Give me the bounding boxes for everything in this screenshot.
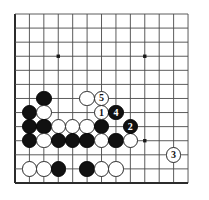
move-stone-3: 3: [166, 147, 182, 163]
move-number-label: 5: [99, 93, 104, 103]
white-stone: [108, 161, 124, 177]
white-stone: [36, 105, 52, 121]
move-number-label: 1: [99, 107, 104, 117]
white-stone: [36, 161, 52, 177]
star-point: [143, 139, 146, 142]
star-point: [143, 55, 146, 58]
move-stone-4: 4: [108, 105, 124, 121]
white-stone: [94, 161, 110, 177]
white-stone: [36, 133, 52, 149]
move-number-label: 3: [171, 149, 176, 159]
move-number-label: 2: [128, 121, 133, 131]
go-board-diagram: 51423: [0, 0, 209, 200]
black-stone: [51, 161, 67, 177]
star-point: [57, 55, 60, 58]
move-number-label: 4: [113, 107, 118, 117]
black-stone: [108, 133, 124, 149]
white-stone: [79, 91, 95, 107]
black-stone: [36, 91, 52, 107]
white-stone: [22, 161, 38, 177]
black-stone: [79, 161, 95, 177]
